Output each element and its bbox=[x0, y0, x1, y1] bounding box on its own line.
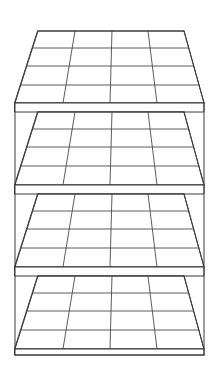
shelf-surface-2 bbox=[15, 112, 204, 185]
shelf-surface-4 bbox=[15, 276, 204, 349]
shelf-tier-3 bbox=[15, 194, 204, 276]
shelf-tier-4 bbox=[15, 276, 204, 355]
shelf-front-rail-4 bbox=[15, 349, 204, 355]
shelf-front-rail-1 bbox=[15, 103, 204, 112]
shelf-surface-3 bbox=[15, 194, 204, 267]
figure-root bbox=[0, 0, 218, 365]
shelf-surface-1 bbox=[15, 31, 204, 103]
shelf-front-rail-2 bbox=[15, 185, 204, 194]
rack-group bbox=[15, 31, 204, 355]
shelf-tier-2 bbox=[15, 112, 204, 194]
shelf-front-rail-3 bbox=[15, 267, 204, 276]
shelving-rack-drawing bbox=[0, 0, 218, 365]
shelf-tier-1 bbox=[15, 31, 204, 112]
